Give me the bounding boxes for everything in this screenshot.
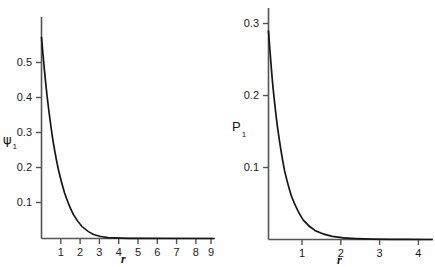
psi-x-axis-label: r [121, 253, 126, 265]
psi-ytick-4: 0.5 [4, 57, 32, 68]
psi-ytick-1: 0.2 [4, 162, 32, 173]
psi-curve [42, 37, 214, 238]
p-subscript: 1 [242, 130, 246, 139]
p-plot-panel: 0.1 0.2 0.3 1 2 3 4 P1 r [218, 0, 435, 267]
psi-y-axis-label: ψ1 [3, 133, 16, 149]
p-xtick-3: 4 [408, 248, 428, 259]
psi-xtick-1: 2 [70, 247, 90, 258]
psi-xtick-5: 6 [147, 247, 167, 258]
p-x-axis-label: r [337, 254, 342, 266]
p-ytick-0: 0.1 [231, 162, 259, 173]
psi-subscript: 1 [13, 142, 17, 151]
p-plot-svg [218, 0, 435, 267]
p-y-ticks [263, 24, 269, 168]
figure-container: 0.1 0.2 0.3 0.4 0.5 1 2 3 4 5 6 7 8 9 ψ1… [0, 0, 435, 267]
p-ytick-1: 0.2 [231, 90, 259, 101]
p-curve [269, 31, 433, 240]
psi-xtick-2: 3 [89, 247, 109, 258]
p-y-axis-label: P1 [232, 120, 245, 137]
psi-y-ticks [36, 63, 42, 203]
psi-ytick-3: 0.4 [4, 92, 32, 103]
p-xtick-2: 3 [370, 248, 390, 259]
psi-xtick-0: 1 [51, 247, 71, 258]
psi-symbol: ψ [3, 132, 12, 147]
p-ytick-2: 0.3 [231, 18, 259, 29]
p-x-ticks [302, 240, 418, 246]
psi-plot-panel: 0.1 0.2 0.3 0.4 0.5 1 2 3 4 5 6 7 8 9 ψ1… [0, 0, 218, 267]
psi-xtick-4: 5 [128, 247, 148, 258]
psi-xtick-6: 7 [167, 247, 187, 258]
p-symbol: P [232, 119, 241, 134]
p-xtick-0: 1 [292, 248, 312, 259]
psi-plot-svg [0, 0, 218, 267]
psi-ytick-0: 0.1 [4, 197, 32, 208]
